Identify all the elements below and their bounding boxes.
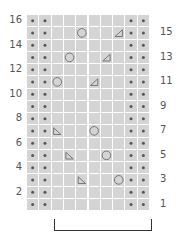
purl-dot-icon <box>43 44 46 47</box>
purl-dot-icon <box>43 178 46 181</box>
purl-dot-icon <box>31 68 34 71</box>
purl-dot-icon <box>142 129 145 132</box>
yarn-over-icon <box>65 53 74 62</box>
purl-dot-icon <box>130 93 133 96</box>
purl-dot-icon <box>31 31 34 34</box>
purl-dot-icon <box>43 203 46 206</box>
purl-dot-icon <box>31 142 34 145</box>
repeat-bracket <box>54 219 152 231</box>
row-number-label: 7 <box>160 124 166 136</box>
purl-dot-icon <box>142 178 145 181</box>
yarn-over-icon <box>90 127 99 136</box>
purl-dot-icon <box>43 142 46 145</box>
purl-dot-icon <box>130 117 133 120</box>
purl-dot-icon <box>142 117 145 120</box>
purl-dot-icon <box>31 178 34 181</box>
knitting-chart: 16141210864215131197531 <box>0 0 179 243</box>
row-number-label: 15 <box>160 26 173 38</box>
purl-dot-icon <box>130 31 133 34</box>
yarn-over-icon <box>114 176 123 185</box>
purl-dot-icon <box>142 80 145 83</box>
purl-dot-icon <box>142 142 145 145</box>
purl-dot-icon <box>31 191 34 194</box>
purl-dot-icon <box>130 203 133 206</box>
purl-dot-icon <box>43 105 46 108</box>
k2tog-icon <box>103 54 110 61</box>
purl-dot-icon <box>130 105 133 108</box>
purl-dot-icon <box>130 44 133 47</box>
purl-dot-icon <box>31 56 34 59</box>
purl-dot-icon <box>43 31 46 34</box>
purl-dot-icon <box>31 129 34 132</box>
purl-dot-icon <box>31 154 34 157</box>
row-number-label: 11 <box>160 75 173 87</box>
purl-dot-icon <box>142 93 145 96</box>
row-number-label: 3 <box>160 173 166 185</box>
purl-dot-icon <box>130 191 133 194</box>
purl-dot-icon <box>31 166 34 169</box>
ssk-icon <box>66 152 73 159</box>
purl-dot-icon <box>43 93 46 96</box>
stitch-grid <box>27 15 150 211</box>
row-number-label: 12 <box>9 63 22 75</box>
purl-dot-icon <box>142 31 145 34</box>
purl-dot-icon <box>142 166 145 169</box>
purl-dot-icon <box>43 117 46 120</box>
row-number-label: 5 <box>160 149 166 161</box>
yarn-over-icon <box>53 78 62 87</box>
purl-dot-icon <box>43 166 46 169</box>
row-number-label: 10 <box>9 88 22 100</box>
purl-dot-icon <box>130 68 133 71</box>
ssk-icon <box>54 128 61 135</box>
row-number-label: 13 <box>160 51 173 63</box>
purl-dot-icon <box>142 56 145 59</box>
purl-dot-icon <box>130 142 133 145</box>
k2tog-icon <box>91 79 98 86</box>
purl-dot-icon <box>43 19 46 22</box>
purl-dot-icon <box>43 56 46 59</box>
purl-dot-icon <box>31 117 34 120</box>
purl-dot-icon <box>142 203 145 206</box>
purl-dot-icon <box>31 19 34 22</box>
row-number-label: 2 <box>16 186 22 198</box>
purl-dot-icon <box>130 80 133 83</box>
purl-dot-icon <box>31 44 34 47</box>
row-number-label: 8 <box>16 112 22 124</box>
row-number-label: 16 <box>9 14 22 26</box>
purl-dot-icon <box>43 68 46 71</box>
purl-dot-icon <box>43 154 46 157</box>
purl-dot-icon <box>142 154 145 157</box>
purl-dot-icon <box>43 129 46 132</box>
purl-dot-icon <box>43 80 46 83</box>
yarn-over-icon <box>78 29 87 38</box>
purl-dot-icon <box>142 105 145 108</box>
row-number-label: 4 <box>16 161 22 173</box>
purl-dot-icon <box>130 166 133 169</box>
purl-dot-icon <box>130 56 133 59</box>
purl-dot-icon <box>130 19 133 22</box>
ssk-icon <box>78 177 85 184</box>
row-number-label: 1 <box>160 198 166 210</box>
purl-dot-icon <box>142 44 145 47</box>
purl-dot-icon <box>31 93 34 96</box>
row-number-label: 9 <box>160 100 166 112</box>
purl-dot-icon <box>142 19 145 22</box>
row-number-label: 14 <box>9 39 22 51</box>
purl-dot-icon <box>31 203 34 206</box>
purl-dot-icon <box>130 178 133 181</box>
purl-dot-icon <box>31 80 34 83</box>
purl-dot-icon <box>31 105 34 108</box>
k2tog-icon <box>115 30 122 37</box>
purl-dot-icon <box>43 191 46 194</box>
yarn-over-icon <box>102 151 111 160</box>
row-number-label: 6 <box>16 137 22 149</box>
purl-dot-icon <box>130 129 133 132</box>
purl-dot-icon <box>142 68 145 71</box>
purl-dot-icon <box>130 154 133 157</box>
purl-dot-icon <box>142 191 145 194</box>
